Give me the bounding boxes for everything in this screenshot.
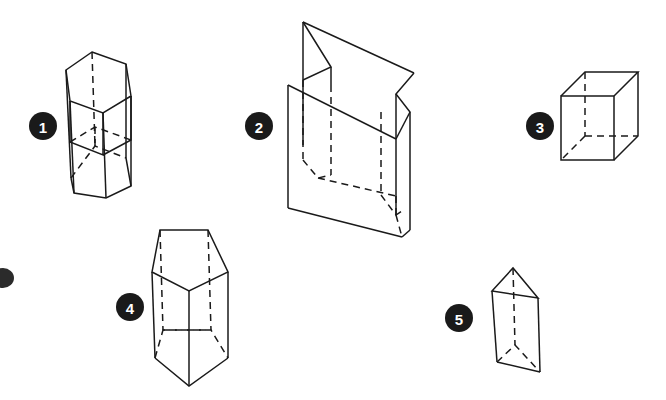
solid-2-mid-fold [288,85,396,139]
solid-5-edge-right [538,298,540,372]
badge-1[interactable]: 1 [29,112,57,140]
badge-4[interactable]: 4 [116,293,144,321]
badge-1-label: 1 [39,119,47,136]
solid-5-hidden-vert-back [513,268,515,345]
badge-2[interactable]: 2 [245,112,273,140]
badge-4-label: 4 [126,300,135,317]
solid-1-hexagonal-prism-upright [66,52,131,198]
solid-2-bottom-front-fold [288,208,402,237]
solid-4-hidden-vert-left [160,230,163,330]
figure-canvas: 1 2 3 4 5 [0,0,666,400]
badge-3[interactable]: 3 [526,112,554,140]
solid-2-right-fold [396,73,414,230]
solid-1-bottom-front [71,158,131,198]
solid-2-hidden-floor-mid [318,178,396,196]
solid-2-mid-fold-up [396,112,410,139]
solid-4-edge-left [152,272,155,358]
badge-5-label: 5 [455,311,463,328]
solid-2-hidden-floor-left [303,160,331,178]
solid-3-top-face [561,72,638,96]
solids-illustration: 1 2 3 4 5 [0,0,666,400]
solid-1-inner-band-hidden [70,127,131,142]
solid-2-bottom-right-corner [402,230,410,237]
solid-4-hidden-bottom-back [155,330,228,358]
badge-3-label: 3 [536,119,544,136]
solid-5-bottom-front [497,362,540,372]
badge-2-label: 2 [255,119,263,136]
solid-3-right-face [614,72,638,160]
solid-4-top-face [152,230,228,291]
solid-4-bottom-front [155,358,228,386]
solid-2-folded-open-box [288,22,414,237]
badge-5[interactable]: 5 [445,304,473,332]
solid-5-edge-left [492,291,497,362]
solid-5-triangular-prism [492,268,540,372]
solid-1-top-face [66,52,131,113]
solid-2-flap-top-left [303,22,331,80]
solid-5-hidden-bottom-back [497,345,540,372]
solid-2-hidden-corner-drop [396,215,402,237]
solid-1-inner-band-left [70,101,103,155]
solid-1-hidden-bottom-back [71,146,126,178]
clipped-dot-left-edge [0,268,14,288]
solid-3-cube [561,72,638,160]
solid-3-hidden-back-left [561,136,585,160]
solid-2-hidden-floor-right [381,195,402,215]
solid-4-hexagonal-prism-edge-on [152,230,228,386]
solid-5-top-face [492,268,538,298]
solid-3-front-face [561,96,614,160]
